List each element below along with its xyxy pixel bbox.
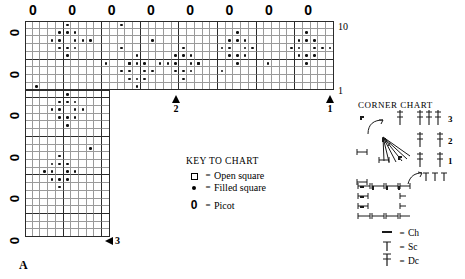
dc-icon — [378, 253, 396, 269]
open-square-icon — [186, 170, 202, 181]
key-equals: = — [202, 182, 214, 192]
ch-tie-icon — [378, 156, 390, 164]
legend-equals: = — [396, 228, 408, 238]
arrow-2-marker: 2 — [172, 95, 180, 114]
row-label-10: 10 — [338, 21, 348, 32]
arrow-3-label: 3 — [115, 235, 120, 246]
key-to-chart: KEY TO CHART = Open square = Filled squa… — [186, 156, 326, 211]
picot-marker-left: 0 — [8, 70, 21, 77]
picot-icon: 0 — [186, 199, 202, 211]
sc-icon — [422, 172, 430, 182]
arrow-up-icon — [326, 95, 334, 103]
arrow-2-label: 2 — [172, 103, 180, 114]
arrow-up-icon — [172, 95, 180, 103]
arrow-left-icon — [105, 237, 113, 245]
dc-icon — [396, 110, 404, 126]
legend-row-dc: = Dc — [378, 254, 458, 268]
sc-icon — [431, 172, 439, 182]
picot-marker-left: 0 — [8, 112, 21, 119]
arrow-1-marker: 1 — [326, 95, 334, 114]
sc-icon — [440, 172, 448, 182]
key-row-open-square: = Open square — [186, 169, 326, 181]
chain-line — [360, 116, 362, 178]
picot-marker-left: 0 — [8, 195, 21, 202]
legend-row-sc: = Sc — [378, 240, 458, 254]
filled-dot-icon — [186, 182, 202, 193]
legend-label-ch: Ch — [408, 228, 419, 238]
ch-tie-icon — [356, 148, 368, 156]
key-equals: = — [202, 170, 214, 180]
ch-icon — [378, 228, 396, 238]
key-row-picot: 0 = Picot — [186, 199, 326, 211]
row-label-1: 1 — [338, 85, 343, 96]
key-title: KEY TO CHART — [186, 156, 326, 166]
dc-icon — [416, 110, 424, 126]
dc-icon — [434, 110, 442, 126]
arrow-1-label: 1 — [326, 103, 334, 114]
dc-icon — [436, 132, 444, 148]
picot-marker-left: 0 — [8, 29, 21, 36]
ch-row-icon — [356, 212, 414, 221]
key-row-filled-square: = Filled square — [186, 181, 326, 193]
dc-icon — [436, 152, 444, 168]
sc-icon — [378, 241, 396, 254]
picot-marker-left: 0 — [8, 236, 21, 243]
dc-icon — [425, 110, 433, 126]
key-label-picot: Picot — [214, 200, 235, 211]
key-label-filled-square: Filled square — [214, 182, 266, 193]
chart-label-a: A — [19, 258, 28, 273]
legend-label-dc: Dc — [408, 256, 419, 266]
key-equals: = — [202, 200, 214, 210]
ch-row-icon — [356, 192, 406, 201]
legend-equals: = — [396, 242, 408, 252]
corner-chart-legend: = Ch = Sc = Dc — [378, 226, 458, 268]
arrow-3-marker: 3 — [105, 235, 120, 246]
legend-equals: = — [396, 256, 408, 266]
dc-icon — [416, 132, 424, 148]
ch-row-icon — [356, 182, 414, 191]
key-label-open-square: Open square — [214, 170, 264, 181]
picot-marker-left: 0 — [8, 153, 21, 160]
dc-icon — [416, 152, 424, 168]
ch-row-icon — [356, 202, 406, 211]
legend-row-ch: = Ch — [378, 226, 458, 240]
corner-row-number-2: 2 — [448, 136, 453, 146]
legend-label-sc: Sc — [408, 242, 418, 252]
corner-row-number-1: 1 — [448, 156, 453, 166]
corner-row-number-3: 3 — [448, 114, 453, 124]
corner-curve-icon — [366, 118, 386, 136]
corner-chart-title: CORNER CHART — [358, 100, 433, 110]
